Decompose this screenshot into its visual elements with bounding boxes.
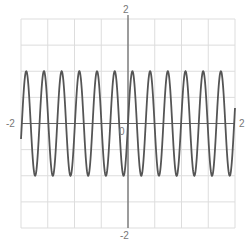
function-plot [0,0,249,243]
y-max-label: 2 [123,5,129,15]
x-max-label: 2 [239,119,245,129]
x-min-label: -2 [6,119,15,129]
origin-label: 0 [119,127,125,137]
y-min-label: -2 [120,231,129,241]
